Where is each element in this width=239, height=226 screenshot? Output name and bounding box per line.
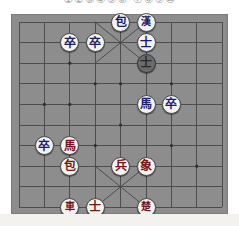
piece-pawn-blue-3[interactable]: 卒 (162, 95, 181, 114)
piece-general-han[interactable]: 漢 (137, 13, 156, 32)
piece-advisor-blue-1[interactable]: 士 (137, 33, 156, 52)
piece-pawn-blue-2[interactable]: 卒 (86, 33, 105, 52)
piece-advisor-blue-2-selected[interactable]: 士 (137, 54, 156, 73)
piece-elephant-red[interactable]: 象 (137, 157, 156, 176)
top-caption-strip: ①②③④⑤⑥ ⑦⑧⑨⑩ (0, 0, 239, 14)
janggi-board[interactable]: 包漢士士卒卒馬卒卒馬包兵象車士楚 (11, 14, 228, 214)
board-grid (12, 15, 229, 215)
bottom-strip (0, 214, 239, 226)
piece-cannon-red[interactable]: 包 (60, 157, 79, 176)
piece-soldier-red[interactable]: 兵 (111, 157, 130, 176)
top-caption-text: ①②③④⑤⑥ ⑦⑧⑨⑩ (0, 0, 239, 6)
piece-cannon-blue[interactable]: 包 (111, 13, 130, 32)
board-inner: 包漢士士卒卒馬卒卒馬包兵象車士楚 (12, 15, 229, 215)
piece-pawn-blue-4[interactable]: 卒 (35, 136, 54, 155)
piece-horse-blue[interactable]: 馬 (137, 95, 156, 114)
